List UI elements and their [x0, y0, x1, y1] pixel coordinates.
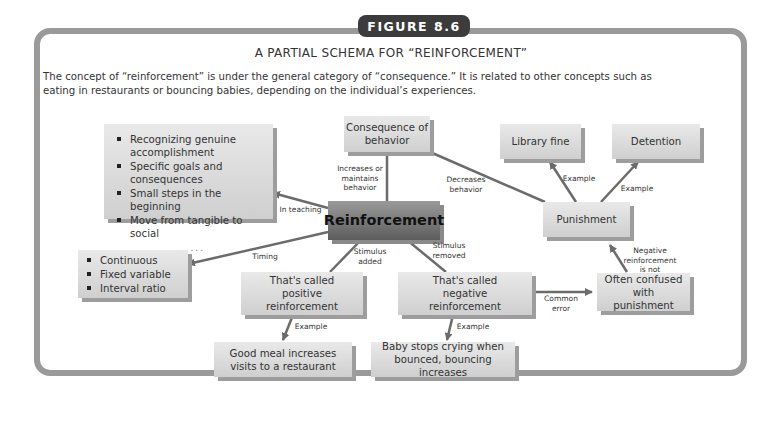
node-consequence: Consequence of behavior — [344, 116, 430, 152]
label-example-detention: Example — [620, 184, 654, 194]
node-negative-reinforcement: That's called negative reinforcement — [398, 272, 532, 315]
node-punishment-label: Punishment — [556, 213, 616, 226]
label-example-positive: Example — [294, 322, 328, 332]
timing-item: Interval ratio — [84, 282, 171, 295]
node-good-meal: Good meal increases visits to a restaura… — [214, 342, 352, 377]
teaching-item: Move from tangible to social — [114, 214, 267, 240]
node-teaching-list: Recognizing genuine accomplishment Speci… — [104, 124, 273, 219]
node-reinforcement: Reinforcement — [328, 201, 440, 240]
label-decreases: Decreases behavior — [444, 175, 488, 194]
label-example-negative: Example — [456, 322, 490, 332]
timing-item: Continuous — [84, 254, 171, 267]
node-negative-label: That's called negative reinforcement — [398, 274, 532, 313]
teaching-item: Small steps in the beginning — [114, 187, 267, 213]
node-library-fine: Library fine — [500, 124, 581, 159]
edge-example-detention — [601, 162, 638, 202]
node-positive-reinforcement: That's called positive reinforcement — [241, 272, 363, 315]
edge-example-negative — [447, 315, 453, 340]
node-baby-label: Baby stops crying when bounced, bouncing… — [371, 340, 515, 379]
label-stimulus-removed: Stimulus removed — [430, 241, 468, 260]
label-increases: Increases or maintains behavior — [336, 164, 384, 193]
node-library-fine-label: Library fine — [511, 135, 569, 148]
label-in-teaching: In teaching — [278, 205, 323, 215]
label-example-fine: Example — [562, 174, 596, 184]
timing-item: Fixed variable — [84, 268, 171, 281]
teaching-item: Specific goals and consequences — [114, 160, 267, 186]
timing-list: Continuous Fixed variable Interval ratio — [84, 253, 171, 296]
teaching-list: Recognizing genuine accomplishment Speci… — [114, 133, 267, 240]
node-detention-label: Detention — [631, 135, 681, 148]
edge-example-positive — [283, 315, 293, 340]
label-stimulus-added: Stimulus added — [353, 247, 387, 266]
node-punishment: Punishment — [543, 202, 630, 237]
node-reinforcement-label: Reinforcement — [324, 214, 444, 227]
teaching-item: Recognizing genuine accomplishment — [114, 133, 267, 159]
label-timing: Timing — [250, 252, 280, 262]
node-confused: Often confused with punishment — [597, 273, 690, 311]
node-good-meal-label: Good meal increases visits to a restaura… — [214, 347, 352, 373]
node-timing-list: Continuous Fixed variable Interval ratio — [78, 250, 188, 298]
node-positive-label: That's called positive reinforcement — [241, 274, 363, 313]
node-confused-label: Often confused with punishment — [597, 273, 690, 312]
label-negative-not: Negative reinforcement is not — [620, 246, 680, 275]
label-common-error: Common error — [544, 294, 578, 313]
node-detention: Detention — [612, 124, 700, 159]
node-baby: Baby stops crying when bounced, bouncing… — [371, 342, 515, 377]
node-consequence-label: Consequence of behavior — [344, 121, 430, 147]
